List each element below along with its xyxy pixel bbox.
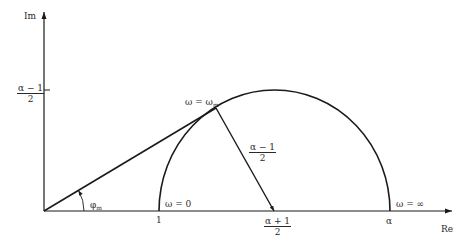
phi-m-subscript: m <box>96 204 102 211</box>
center-label: α + 1 2 <box>264 216 291 237</box>
radius-label: α − 1 2 <box>249 142 276 163</box>
tick-label-one: 1 <box>156 215 162 225</box>
omega-m-label: ω = ωm <box>185 97 219 110</box>
fraction-denominator: 2 <box>275 227 281 237</box>
omega-m-prefix: ω = ω <box>185 97 213 107</box>
omega-zero-label: ω = 0 <box>165 199 191 209</box>
omega-infinity-label: ω = ∞ <box>396 199 424 209</box>
im-axis-label: Im <box>24 11 36 21</box>
fraction-denominator: 2 <box>260 153 266 163</box>
fraction-numerator: α + 1 <box>264 216 291 227</box>
phase-angle-arc <box>79 191 85 212</box>
fraction-denominator: 2 <box>28 94 34 104</box>
fraction-numerator: α − 1 <box>17 83 44 94</box>
polar-diagram <box>0 0 464 242</box>
im-tick-label: α − 1 2 <box>17 83 44 104</box>
tangent-line <box>44 108 216 211</box>
fraction-numerator: α − 1 <box>249 142 276 153</box>
tick-label-alpha: α <box>386 216 392 226</box>
re-axis-label: Re <box>441 224 453 234</box>
omega-m-subscript: m <box>213 101 219 108</box>
phi-m-label: φm <box>90 200 102 213</box>
